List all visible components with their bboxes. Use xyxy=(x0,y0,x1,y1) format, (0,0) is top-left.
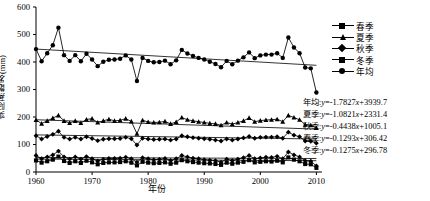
legend-item-winter: 冬季 xyxy=(332,54,428,65)
y-tick-label: 100 xyxy=(8,139,30,149)
legend-marker-square-icon xyxy=(332,20,354,31)
equation-spring-name: 春季 xyxy=(303,134,319,143)
legend-item-spring: 春季 xyxy=(332,20,428,31)
equation-spring: 春季:y=-0.1293x+306.42 xyxy=(303,133,430,145)
y-tick-label: 600 xyxy=(8,2,30,12)
regression-equations: 年均:y=-1.7827x+3939.7 夏季:y=-1.0821x+2331.… xyxy=(303,97,430,157)
equation-spring-intercept: +306.42 xyxy=(359,134,387,143)
x-tick-label: 1980 xyxy=(131,176,165,186)
equation-summer-name: 夏季 xyxy=(303,110,319,119)
legend-label-summer: 夏季 xyxy=(354,31,374,43)
equation-autumn-name: 秋季 xyxy=(303,122,319,131)
y-tick-label: 500 xyxy=(8,29,30,39)
y-tick-label: 400 xyxy=(8,57,30,67)
chart-legend: 春季 夏季 秋季 冬季 年均 xyxy=(332,20,428,77)
series-年均 xyxy=(34,25,319,94)
legend-label-winter: 冬季 xyxy=(354,54,374,66)
legend-item-summer: 夏季 xyxy=(332,31,428,42)
equation-winter: 冬季:y=-0.1275x+296.78 xyxy=(303,145,430,157)
legend-marker-square2-icon xyxy=(332,54,354,65)
equation-annual-name: 年均 xyxy=(303,98,319,107)
legend-label-spring: 春季 xyxy=(354,20,374,32)
equation-annual-intercept: +3939.7 xyxy=(359,98,387,107)
equation-autumn-slope: =-0.4438 xyxy=(325,122,356,131)
trendline-年均 xyxy=(36,49,316,65)
legend-item-autumn: 秋季 xyxy=(332,43,428,54)
equation-winter-name: 冬季 xyxy=(303,146,319,155)
x-tick-label: 1970 xyxy=(75,176,109,186)
legend-marker-cross-icon xyxy=(332,43,354,54)
equation-annual: 年均:y=-1.7827x+3939.7 xyxy=(303,97,430,109)
equation-winter-slope: =-0.1275 xyxy=(325,146,356,155)
x-tick-label: 2010 xyxy=(299,176,333,186)
y-tick-label: 300 xyxy=(8,84,30,94)
equation-summer-intercept: +2331.4 xyxy=(359,110,387,119)
chart-plot-area xyxy=(34,25,319,170)
equation-winter-intercept: +296.78 xyxy=(359,146,387,155)
legend-item-annual: 年均 xyxy=(332,66,428,77)
legend-marker-circle-icon xyxy=(332,66,354,77)
equation-annual-slope: =-1.7827 xyxy=(325,98,356,107)
y-tick-label: 200 xyxy=(8,112,30,122)
equation-spring-slope: =-0.1293 xyxy=(325,134,356,143)
equation-autumn: 秋季:y=-0.4438x+1005.1 xyxy=(303,121,430,133)
x-tick-label: 1960 xyxy=(19,176,53,186)
legend-marker-triangle-icon xyxy=(332,32,354,43)
legend-label-autumn: 秋季 xyxy=(354,42,374,54)
legend-label-annual: 年均 xyxy=(354,65,374,77)
x-tick-label: 1990 xyxy=(187,176,221,186)
x-tick-label: 2000 xyxy=(243,176,277,186)
chart-axes xyxy=(33,7,322,175)
equation-summer-slope: =-1.0821 xyxy=(325,110,356,119)
equation-autumn-intercept: +1005.1 xyxy=(359,122,387,131)
equation-summer: 夏季:y=-1.0821x+2331.4 xyxy=(303,109,430,121)
